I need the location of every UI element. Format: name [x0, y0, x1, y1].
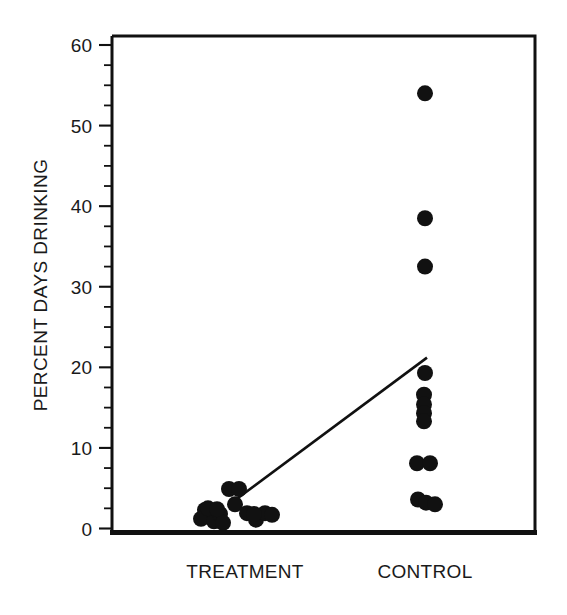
y-tick-label: 60: [71, 35, 92, 56]
y-tick-label: 40: [71, 196, 92, 217]
data-point: [417, 365, 433, 381]
y-tick-label: 0: [81, 519, 92, 540]
data-point: [416, 413, 432, 429]
data-point: [417, 259, 433, 275]
data-point: [231, 481, 247, 497]
y-tick-label: 10: [71, 438, 92, 459]
data-point: [422, 455, 438, 471]
scatter-plot-canvas: PERCENT DAYS DRINKING 0102030405060 TREA…: [0, 0, 567, 615]
data-point: [417, 85, 433, 101]
data-point: [246, 506, 262, 522]
data-point: [264, 507, 280, 523]
data-point: [417, 210, 433, 226]
y-tick-label: 50: [71, 116, 92, 137]
y-axis-title: PERCENT DAYS DRINKING: [30, 159, 51, 412]
y-tick-label: 30: [71, 277, 92, 298]
data-point: [209, 501, 225, 517]
data-point: [215, 515, 231, 531]
figure-root: PERCENT DAYS DRINKING 0102030405060 TREA…: [0, 0, 567, 615]
y-tick-label: 20: [71, 357, 92, 378]
category-label-control: CONTROL: [378, 561, 473, 582]
data-point: [427, 496, 443, 512]
category-label-treatment: TREATMENT: [186, 561, 303, 582]
